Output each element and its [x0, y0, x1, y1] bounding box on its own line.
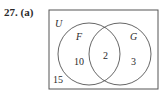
outside-value: 15 — [53, 74, 63, 85]
only-g-value: 3 — [131, 56, 136, 67]
intersection-value: 2 — [103, 50, 108, 61]
venn-diagram: U F G 10 2 3 15 — [0, 0, 162, 93]
universe-label: U — [55, 18, 63, 29]
set-f-label: F — [75, 31, 83, 42]
set-g-label: G — [130, 31, 137, 42]
only-f-value: 10 — [74, 56, 84, 67]
